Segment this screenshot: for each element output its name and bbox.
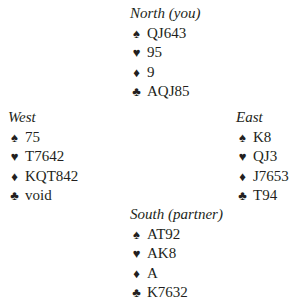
east-clubs-cards: T94 (253, 187, 277, 203)
west-title: West (8, 108, 78, 128)
south-clubs: ♣K7632 (130, 283, 223, 303)
west-hearts-cards: T7642 (25, 148, 64, 164)
north-diamonds: ♦9 (130, 63, 200, 83)
south-hearts-cards: AK8 (147, 245, 176, 261)
north-spades: ♠QJ643 (130, 24, 200, 44)
heart-icon: ♥ (236, 147, 249, 167)
west-clubs-cards: void (25, 187, 52, 203)
north-clubs-cards: AQJ85 (147, 83, 190, 99)
south-hearts: ♥AK8 (130, 244, 223, 264)
spade-icon: ♠ (130, 24, 143, 44)
club-icon: ♣ (8, 186, 21, 206)
east-hand: East ♠K8 ♥QJ3 ♦J7653 ♣T94 (236, 108, 289, 206)
west-hand: West ♠75 ♥T7642 ♦KQT842 ♣void (8, 108, 78, 206)
east-spades-cards: K8 (253, 129, 271, 145)
spade-icon: ♠ (8, 128, 21, 148)
diamond-icon: ♦ (236, 167, 249, 187)
south-hand: South (partner) ♠AT92 ♥AK8 ♦A ♣K7632 (130, 205, 223, 303)
heart-icon: ♥ (130, 43, 143, 63)
diamond-icon: ♦ (8, 167, 21, 187)
heart-icon: ♥ (8, 147, 21, 167)
west-hearts: ♥T7642 (8, 147, 78, 167)
diamond-icon: ♦ (130, 63, 143, 83)
south-spades: ♠AT92 (130, 225, 223, 245)
west-spades: ♠75 (8, 128, 78, 148)
east-spades: ♠K8 (236, 128, 289, 148)
south-diamonds-cards: A (147, 265, 158, 281)
club-icon: ♣ (130, 283, 143, 303)
north-clubs: ♣AQJ85 (130, 82, 200, 102)
south-title: South (partner) (130, 205, 223, 225)
east-title: East (236, 108, 289, 128)
heart-icon: ♥ (130, 244, 143, 264)
club-icon: ♣ (130, 82, 143, 102)
west-clubs: ♣void (8, 186, 78, 206)
west-spades-cards: 75 (25, 129, 40, 145)
north-title: North (you) (130, 4, 200, 24)
east-diamonds: ♦J7653 (236, 167, 289, 187)
east-clubs: ♣T94 (236, 186, 289, 206)
east-diamonds-cards: J7653 (253, 168, 289, 184)
south-clubs-cards: K7632 (147, 284, 188, 300)
north-diamonds-cards: 9 (147, 64, 155, 80)
north-hearts: ♥95 (130, 43, 200, 63)
south-spades-cards: AT92 (147, 226, 180, 242)
spade-icon: ♠ (130, 225, 143, 245)
club-icon: ♣ (236, 186, 249, 206)
north-hearts-cards: 95 (147, 44, 162, 60)
spade-icon: ♠ (236, 128, 249, 148)
west-diamonds: ♦KQT842 (8, 167, 78, 187)
south-diamonds: ♦A (130, 264, 223, 284)
north-spades-cards: QJ643 (147, 25, 186, 41)
north-hand: North (you) ♠QJ643 ♥95 ♦9 ♣AQJ85 (130, 4, 200, 102)
diamond-icon: ♦ (130, 264, 143, 284)
east-hearts: ♥QJ3 (236, 147, 289, 167)
east-hearts-cards: QJ3 (253, 148, 277, 164)
west-diamonds-cards: KQT842 (25, 168, 78, 184)
